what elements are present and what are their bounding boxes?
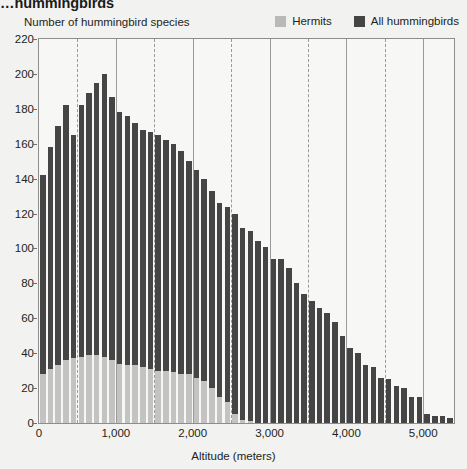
bar-group[interactable]: [125, 116, 131, 423]
y-axis-tick-label: 20: [0, 382, 34, 394]
bar-group[interactable]: [55, 126, 61, 423]
bar-series-container: [39, 39, 454, 423]
bar-group[interactable]: [386, 379, 392, 423]
bar-group[interactable]: [209, 191, 215, 423]
bar-group[interactable]: [378, 378, 384, 423]
bar-hermits: [132, 365, 138, 423]
bar-group[interactable]: [109, 97, 115, 423]
y-axis-tick: [32, 74, 37, 75]
x-axis-tick-label: 4,000: [332, 427, 361, 439]
bar-group[interactable]: [424, 414, 430, 423]
bar-hermits: [163, 371, 169, 423]
bar-group[interactable]: [178, 151, 184, 423]
bar-group[interactable]: [432, 416, 438, 423]
bar-hermits: [178, 374, 184, 423]
x-axis-title: Altitude (meters): [0, 450, 467, 462]
bar-group[interactable]: [132, 123, 138, 423]
chart-legend: Hermits All hummingbirds: [275, 16, 459, 28]
bar-group[interactable]: [417, 397, 423, 423]
bar-group[interactable]: [86, 93, 92, 423]
bar-group[interactable]: [194, 170, 200, 423]
bar-group[interactable]: [440, 416, 446, 423]
bar-all-hummingbirds: [440, 416, 446, 423]
bar-all-hummingbirds: [225, 207, 231, 423]
bar-hermits: [94, 355, 100, 423]
bar-group[interactable]: [324, 313, 330, 423]
bar-all-hummingbirds: [409, 397, 415, 423]
bar-hermits: [248, 421, 254, 423]
bar-group[interactable]: [171, 144, 177, 423]
bar-hermits: [194, 378, 200, 423]
bar-hermits: [225, 402, 231, 423]
bar-group[interactable]: [94, 83, 100, 423]
bar-all-hummingbirds: [432, 416, 438, 423]
bar-group[interactable]: [248, 231, 254, 423]
bar-group[interactable]: [140, 130, 146, 423]
bar-group[interactable]: [79, 105, 85, 423]
bar-group[interactable]: [309, 301, 315, 423]
bar-group[interactable]: [40, 175, 46, 423]
y-axis-tick-label: 100: [0, 242, 34, 254]
bar-group[interactable]: [217, 203, 223, 423]
hummingbird-altitude-chart: …hummingbirds Number of hummingbird spec…: [0, 0, 467, 469]
legend-item-hermits[interactable]: Hermits: [275, 16, 332, 28]
bar-group[interactable]: [394, 386, 400, 423]
bar-group[interactable]: [332, 322, 338, 423]
bar-hermits: [40, 374, 46, 423]
bar-group[interactable]: [286, 268, 292, 423]
bar-group[interactable]: [201, 179, 207, 423]
y-axis-tick: [32, 353, 37, 354]
bar-group[interactable]: [447, 418, 453, 423]
y-axis-tick: [32, 423, 37, 424]
bar-all-hummingbirds: [371, 367, 377, 423]
bar-all-hummingbirds: [271, 259, 277, 423]
bar-group[interactable]: [340, 336, 346, 423]
bar-group[interactable]: [148, 132, 154, 423]
bar-hermits: [117, 364, 123, 423]
bar-group[interactable]: [63, 105, 69, 423]
bar-group[interactable]: [371, 367, 377, 423]
bar-all-hummingbirds: [301, 294, 307, 423]
bar-hermits: [171, 372, 177, 423]
bar-group[interactable]: [155, 135, 161, 423]
bar-group[interactable]: [355, 353, 361, 423]
bar-hermits: [155, 371, 161, 423]
bar-all-hummingbirds: [240, 228, 246, 423]
y-axis-tick-label: 40: [0, 347, 34, 359]
bar-group[interactable]: [232, 214, 238, 423]
bar-group[interactable]: [317, 308, 323, 423]
bar-group[interactable]: [263, 247, 269, 423]
bar-all-hummingbirds: [401, 388, 407, 423]
bar-group[interactable]: [225, 207, 231, 423]
y-axis-tick-label: 80: [0, 277, 34, 289]
legend-swatch-icon: [354, 16, 365, 27]
bar-group[interactable]: [102, 74, 108, 423]
bar-group[interactable]: [278, 259, 284, 423]
bar-group[interactable]: [71, 135, 77, 423]
bar-group[interactable]: [294, 283, 300, 423]
bar-group[interactable]: [301, 294, 307, 423]
bar-group[interactable]: [271, 259, 277, 423]
bar-all-hummingbirds: [278, 259, 284, 423]
bar-hermits: [148, 369, 154, 423]
bar-hermits: [102, 357, 108, 423]
bar-all-hummingbirds: [447, 418, 453, 423]
bar-group[interactable]: [347, 348, 353, 423]
bar-group[interactable]: [409, 397, 415, 423]
bar-group[interactable]: [401, 388, 407, 423]
bar-group[interactable]: [117, 112, 123, 423]
bar-group[interactable]: [255, 241, 261, 423]
bar-all-hummingbirds: [248, 231, 254, 423]
y-axis-tick: [32, 318, 37, 319]
bar-group[interactable]: [186, 161, 192, 423]
legend-label-hermits: Hermits: [292, 16, 332, 28]
legend-item-all-hummingbirds[interactable]: All hummingbirds: [354, 16, 459, 28]
bar-all-hummingbirds: [363, 365, 369, 423]
bar-group[interactable]: [48, 147, 54, 423]
bar-group[interactable]: [240, 228, 246, 423]
bar-all-hummingbirds: [332, 322, 338, 423]
bar-group[interactable]: [163, 140, 169, 423]
bar-group[interactable]: [363, 365, 369, 423]
bar-all-hummingbirds: [294, 283, 300, 423]
y-axis-title: Number of hummingbird species: [24, 16, 190, 28]
